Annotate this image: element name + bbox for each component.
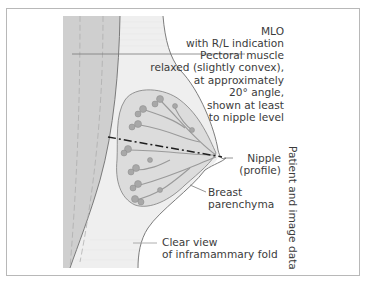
pectoral-line1: Pectoral muscle bbox=[150, 49, 284, 61]
fold-line1: Clear view bbox=[162, 236, 278, 248]
nipple-line1: Nipple bbox=[239, 152, 281, 164]
pectoral-line2: relaxed (slightly convex), bbox=[150, 61, 284, 73]
nipple-label: Nipple (profile) bbox=[239, 152, 281, 177]
parenchyma-line2: parenchyma bbox=[208, 198, 274, 210]
parenchyma-line1: Breast bbox=[208, 186, 274, 198]
parenchyma-leader bbox=[190, 185, 206, 192]
parenchyma-label: Breast parenchyma bbox=[208, 186, 274, 211]
pectoral-line5: shown at least bbox=[150, 99, 284, 111]
view-label-line2: with R/L indication bbox=[186, 37, 284, 49]
pectoral-label: Pectoral muscle relaxed (slightly convex… bbox=[150, 49, 284, 123]
pectoral-line6: to nipple level bbox=[150, 111, 284, 123]
fold-label: Clear view of inframammary fold bbox=[162, 236, 278, 261]
view-label-line1: MLO bbox=[186, 25, 284, 37]
fold-line2: of inframammary fold bbox=[162, 248, 278, 260]
pectoral-line4: 20° angle, bbox=[150, 86, 284, 98]
view-label: MLO with R/L indication bbox=[186, 25, 284, 50]
patient-data-label: Patient and image data bbox=[287, 146, 299, 270]
pectoral-line3: at approximately bbox=[150, 74, 284, 86]
nipple-line2: (profile) bbox=[239, 164, 281, 176]
